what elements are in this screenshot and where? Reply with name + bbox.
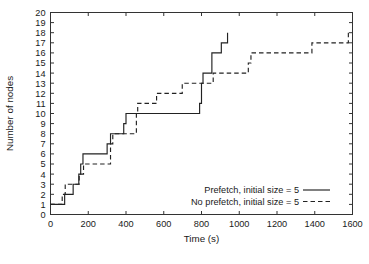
y-tick-label: 5 <box>40 159 45 169</box>
x-tick-label: 0 <box>48 219 53 229</box>
x-tick-label: 600 <box>156 219 171 229</box>
y-tick-label: 6 <box>40 149 45 159</box>
y-tick-label: 13 <box>35 79 45 89</box>
y-axis-label: Number of nodes <box>4 76 15 151</box>
y-tick-label: 11 <box>36 99 46 109</box>
figure-caption <box>0 252 369 264</box>
x-tick-label: 1400 <box>305 219 325 229</box>
figure-container: 0123456789101112131415161718192002004006… <box>0 0 369 264</box>
y-tick-label: 2 <box>40 190 45 200</box>
legend-label-1: No prefetch, initial size = 5 <box>191 197 299 207</box>
y-tick-label: 12 <box>35 89 45 99</box>
y-tick-label: 10 <box>35 109 45 119</box>
y-tick-label: 20 <box>35 8 45 18</box>
x-tick-label: 400 <box>118 219 133 229</box>
y-tick-label: 17 <box>35 38 45 48</box>
x-tick-label: 1000 <box>229 219 249 229</box>
y-tick-label: 14 <box>35 69 45 79</box>
y-tick-label: 4 <box>40 170 45 180</box>
x-tick-label: 1200 <box>267 219 287 229</box>
series-line-1 <box>51 33 349 205</box>
y-tick-label: 19 <box>35 18 45 28</box>
x-axis-label: Time (s) <box>184 233 220 244</box>
y-tick-label: 16 <box>35 48 45 58</box>
plot-frame <box>51 13 353 215</box>
y-tick-label: 9 <box>40 119 45 129</box>
legend-label-0: Prefetch, initial size = 5 <box>204 185 299 195</box>
series-line-0 <box>51 33 228 205</box>
y-tick-label: 15 <box>35 58 45 68</box>
y-tick-label: 1 <box>40 200 45 210</box>
line-chart: 0123456789101112131415161718192002004006… <box>0 0 369 264</box>
x-tick-label: 200 <box>81 219 96 229</box>
x-tick-label: 1600 <box>342 219 362 229</box>
y-tick-label: 18 <box>35 28 45 38</box>
y-tick-label: 8 <box>40 129 45 139</box>
y-tick-label: 0 <box>40 210 45 220</box>
y-tick-label: 7 <box>40 139 45 149</box>
x-tick-label: 800 <box>194 219 209 229</box>
y-tick-label: 3 <box>40 180 45 190</box>
